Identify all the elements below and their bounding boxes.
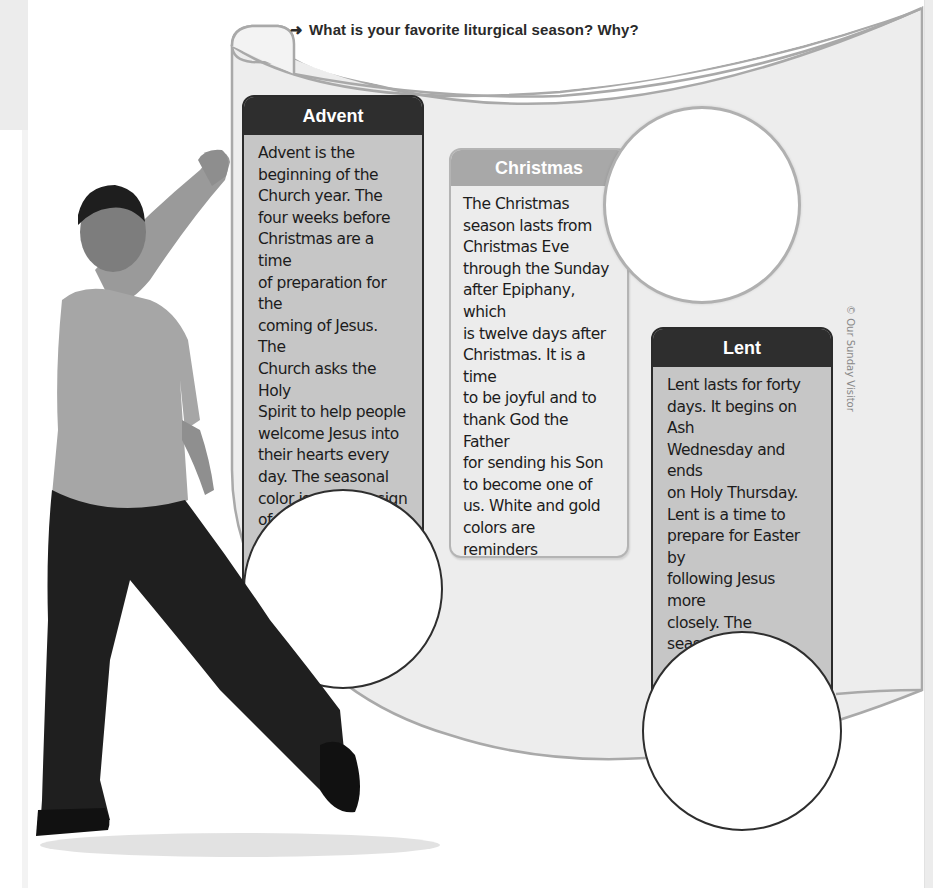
copyright-credit: © Our Sunday Visitor [845, 305, 856, 412]
boy-photo [0, 0, 933, 888]
